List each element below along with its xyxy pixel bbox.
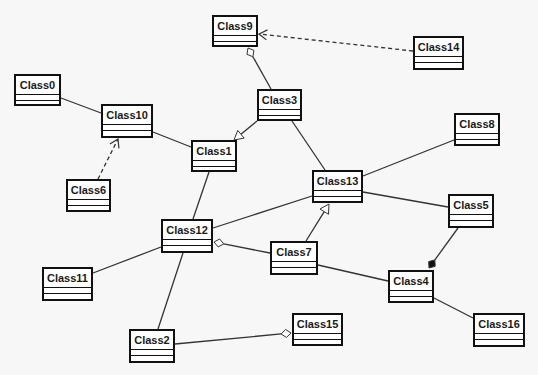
- relationship-line: [292, 121, 325, 170]
- operations-compartment: [456, 140, 498, 144]
- class-name: Class10: [103, 106, 151, 125]
- operations-compartment: [214, 42, 256, 45]
- relationship-aggregation[interactable]: [247, 48, 271, 89]
- class-box-class12[interactable]: Class12: [161, 219, 213, 253]
- class-name: Class2: [131, 331, 173, 350]
- relationship-line: [175, 334, 281, 344]
- relationship-association[interactable]: [153, 132, 191, 147]
- class-box-class8[interactable]: Class8: [454, 113, 500, 146]
- filled-diamond-icon: [429, 260, 435, 268]
- class-box-class6[interactable]: Class6: [66, 179, 111, 212]
- relationship-line: [224, 244, 270, 253]
- class-name: Class7: [272, 243, 316, 262]
- operations-compartment: [163, 246, 211, 251]
- class-name: Class1: [193, 142, 235, 161]
- class-box-class2[interactable]: Class2: [129, 329, 175, 363]
- hollow-diamond-icon: [281, 329, 291, 337]
- relationship-line: [306, 212, 324, 241]
- operations-compartment: [103, 131, 151, 136]
- relationship-line: [193, 172, 209, 219]
- hollow-diamond-icon: [247, 48, 254, 57]
- relationship-line: [253, 57, 271, 89]
- relationship-line: [241, 121, 257, 134]
- class-name: Class5: [450, 196, 492, 215]
- operations-compartment: [193, 167, 235, 170]
- relationship-line: [213, 196, 312, 228]
- relationship-association[interactable]: [158, 253, 183, 329]
- class-name: Class14: [415, 38, 462, 57]
- operations-compartment: [68, 206, 109, 210]
- relationship-line: [435, 228, 458, 260]
- relationship-line: [434, 298, 473, 318]
- class-box-class16[interactable]: Class16: [473, 313, 525, 347]
- operations-compartment: [44, 294, 91, 299]
- class-name: Class13: [314, 172, 361, 191]
- class-name: Class6: [68, 181, 109, 200]
- relationship-association[interactable]: [434, 298, 473, 318]
- class-name: Class0: [16, 76, 59, 95]
- class-box-class1[interactable]: Class1: [191, 140, 237, 172]
- relationship-dependency[interactable]: [259, 30, 413, 51]
- class-name: Class9: [214, 17, 256, 36]
- relationship-aggregation[interactable]: [175, 329, 291, 344]
- operations-compartment: [294, 340, 341, 344]
- class-box-class14[interactable]: Class14: [413, 36, 464, 70]
- relationship-association[interactable]: [61, 98, 101, 113]
- class-box-class5[interactable]: Class5: [448, 194, 494, 228]
- relationship-line: [363, 192, 448, 207]
- class-box-class15[interactable]: Class15: [292, 313, 343, 346]
- operations-compartment: [450, 221, 492, 226]
- relationship-line: [318, 265, 388, 281]
- class-box-class13[interactable]: Class13: [312, 170, 363, 203]
- relationship-association[interactable]: [93, 247, 161, 273]
- class-box-class10[interactable]: Class10: [101, 104, 153, 138]
- relationship-line: [158, 253, 183, 329]
- operations-compartment: [272, 268, 316, 273]
- class-box-class11[interactable]: Class11: [42, 267, 93, 301]
- class-name: Class11: [44, 269, 91, 288]
- class-name: Class15: [294, 315, 341, 334]
- relationship-association[interactable]: [213, 196, 312, 228]
- class-box-class4[interactable]: Class4: [388, 270, 434, 303]
- relationship-line: [153, 132, 191, 147]
- class-name: Class8: [456, 115, 498, 134]
- operations-compartment: [390, 297, 432, 301]
- relationship-line: [61, 98, 101, 113]
- relationship-line: [98, 139, 118, 179]
- relationship-line: [363, 140, 454, 176]
- relationship-line: [93, 247, 161, 273]
- relationship-dependency[interactable]: [98, 139, 119, 179]
- operations-compartment: [131, 356, 173, 361]
- relationship-composition[interactable]: [429, 228, 458, 268]
- hollow-triangle-arrowhead-icon: [320, 204, 329, 214]
- class-name: Class4: [390, 272, 432, 291]
- relationship-association[interactable]: [193, 172, 209, 219]
- relationship-line: [259, 34, 413, 51]
- class-box-class3[interactable]: Class3: [257, 89, 302, 121]
- operations-compartment: [16, 101, 59, 104]
- class-box-class0[interactable]: Class0: [14, 74, 61, 106]
- class-box-class9[interactable]: Class9: [212, 15, 258, 47]
- operations-compartment: [475, 340, 523, 345]
- relationship-generalization[interactable]: [306, 204, 329, 241]
- class-name: Class3: [259, 91, 300, 110]
- hollow-triangle-arrowhead-icon: [234, 130, 244, 140]
- relationship-association[interactable]: [363, 192, 448, 207]
- operations-compartment: [314, 197, 361, 201]
- operations-compartment: [415, 63, 462, 68]
- class-box-class7[interactable]: Class7: [270, 241, 318, 275]
- relationship-aggregation[interactable]: [214, 239, 270, 253]
- hollow-diamond-icon: [214, 239, 224, 247]
- relationship-association[interactable]: [292, 121, 325, 170]
- relationship-association[interactable]: [318, 265, 388, 281]
- relationship-generalization[interactable]: [234, 121, 257, 140]
- operations-compartment: [259, 116, 300, 119]
- relationship-association[interactable]: [363, 140, 454, 176]
- class-name: Class16: [475, 315, 523, 334]
- class-name: Class12: [163, 221, 211, 240]
